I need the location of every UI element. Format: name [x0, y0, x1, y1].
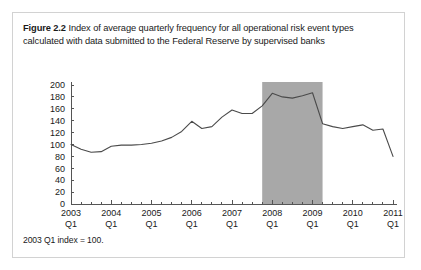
figure-label: Figure 2.2 — [23, 23, 66, 33]
y-tick-label: 200 — [50, 80, 65, 90]
figure-container: Figure 2.2 Index of average quarterly fr… — [12, 12, 405, 258]
x-tick-label-year: 2007 — [222, 208, 242, 218]
recession-shaded-band — [262, 82, 322, 204]
x-tick-label-quarter: Q1 — [186, 219, 198, 229]
line-chart: 020406080100120140160180200 2003Q12004Q1… — [13, 75, 406, 235]
x-tick-label-quarter: Q1 — [105, 219, 117, 229]
x-tick-label-quarter: Q1 — [145, 219, 157, 229]
x-tick-label-year: 2011 — [383, 208, 402, 218]
figure-footnote: 2003 Q1 index = 100. — [23, 235, 103, 245]
y-tick-label: 160 — [50, 104, 65, 114]
data-series-line — [71, 93, 393, 157]
shaded-band-group — [262, 82, 322, 204]
xtick-label-group: 2003Q12004Q12005Q12006Q12007Q12008Q12009… — [61, 208, 403, 229]
x-tick-label-quarter: Q1 — [266, 219, 278, 229]
x-tick-label-year: 2005 — [141, 208, 161, 218]
x-tick-label-year: 2008 — [262, 208, 282, 218]
series-group — [71, 93, 393, 157]
figure-caption-text: Index of average quarterly frequency for… — [23, 23, 354, 46]
y-tick-label: 40 — [55, 175, 65, 185]
x-tick-label-quarter: Q1 — [306, 219, 318, 229]
x-tick-label-year: 2009 — [302, 208, 322, 218]
x-tick-label-quarter: Q1 — [347, 219, 359, 229]
y-tick-label: 20 — [55, 187, 65, 197]
y-tick-label: 100 — [50, 140, 65, 150]
axis-group — [71, 82, 397, 204]
x-tick-label-year: 2004 — [101, 208, 121, 218]
y-tick-label: 80 — [55, 152, 65, 162]
y-tick-label: 120 — [50, 128, 65, 138]
x-tick-label-quarter: Q1 — [226, 219, 238, 229]
x-tick-label-year: 2006 — [182, 208, 202, 218]
x-tick-label-quarter: Q1 — [387, 219, 399, 229]
x-tick-label-quarter: Q1 — [65, 219, 77, 229]
y-tick-label: 140 — [50, 116, 65, 126]
ytick-label-group: 020406080100120140160180200 — [50, 80, 65, 209]
x-tick-label-year: 2010 — [343, 208, 363, 218]
figure-caption: Figure 2.2 Index of average quarterly fr… — [23, 22, 389, 48]
chart-plot: 020406080100120140160180200 2003Q12004Q1… — [13, 75, 406, 235]
y-tick-label: 60 — [55, 164, 65, 174]
y-tick-label: 180 — [50, 92, 65, 102]
x-tick-label-year: 2003 — [61, 208, 81, 218]
